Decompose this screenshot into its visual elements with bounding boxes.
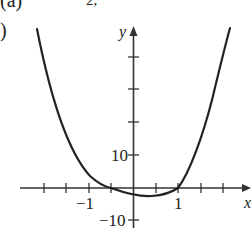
y-axis-arrow-icon [130,26,138,36]
x-axis-label: x [243,194,251,211]
chart: −1 1 10 −10 y x [0,0,251,233]
y-tick-label-neg10: −10 [99,211,126,230]
x-tick-label-1: 1 [174,194,183,213]
x-tick-label-neg1: −1 [76,194,94,213]
y-axis-label: y [117,23,127,41]
x-axis-arrow-icon [242,184,251,192]
y-tick-label-10: 10 [111,146,128,165]
